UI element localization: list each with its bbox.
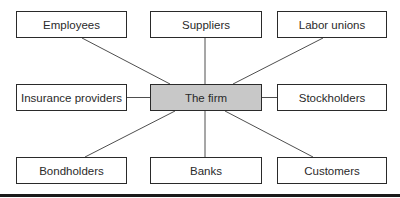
- node-stockholders: Stockholders: [277, 84, 387, 111]
- edge-firm-employees: [82, 38, 170, 84]
- node-labor-unions: Labor unions: [277, 11, 387, 38]
- node-label: Employees: [43, 19, 100, 31]
- edge-firm-bondholders: [85, 111, 175, 157]
- node-employees: Employees: [16, 11, 127, 38]
- bottom-rule-divider: [0, 194, 400, 197]
- stakeholder-diagram: Employees Suppliers Labor unions Insuran…: [0, 0, 400, 198]
- node-label: Insurance providers: [21, 92, 122, 104]
- center-label: The firm: [185, 92, 227, 104]
- node-customers: Customers: [277, 157, 387, 184]
- node-label: Stockholders: [299, 92, 365, 104]
- node-bondholders: Bondholders: [16, 157, 127, 184]
- node-the-firm: The firm: [150, 84, 262, 111]
- node-label: Suppliers: [182, 19, 230, 31]
- edge-firm-labor-unions: [233, 38, 323, 84]
- edge-firm-customers: [225, 111, 313, 157]
- node-insurance-providers: Insurance providers: [16, 84, 127, 111]
- node-banks: Banks: [150, 157, 262, 184]
- node-label: Labor unions: [299, 19, 366, 31]
- node-suppliers: Suppliers: [150, 11, 262, 38]
- node-label: Bondholders: [39, 165, 104, 177]
- node-label: Customers: [304, 165, 360, 177]
- node-label: Banks: [190, 165, 222, 177]
